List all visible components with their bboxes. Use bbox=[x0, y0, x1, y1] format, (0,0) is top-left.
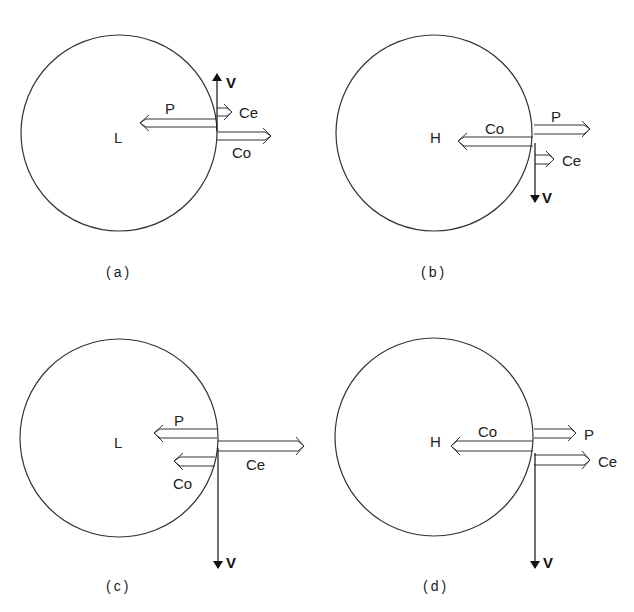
arrow-p-right bbox=[534, 121, 590, 137]
arrow-p-right bbox=[534, 425, 576, 441]
velocity-label: V bbox=[542, 189, 552, 206]
arrow-label-ce: Ce bbox=[598, 453, 617, 470]
arrow-ce-right bbox=[534, 451, 590, 469]
panel-caption: (d) bbox=[423, 578, 449, 594]
panel-caption: (a) bbox=[106, 264, 132, 280]
arrow-label-co: Co bbox=[232, 144, 251, 161]
arrow-p-left bbox=[140, 115, 216, 131]
arrow-label-co: Co bbox=[173, 475, 192, 492]
arrow-label-p: P bbox=[174, 412, 184, 429]
center-label: L bbox=[114, 434, 122, 451]
arrow-label-ce: Ce bbox=[562, 152, 581, 169]
center-label: H bbox=[430, 433, 441, 450]
velocity-label: V bbox=[226, 74, 236, 91]
arrow-label-ce: Ce bbox=[246, 456, 265, 473]
panel-b: H Co P Ce V (b) bbox=[336, 35, 590, 280]
panel-a: L P Ce Co V (a) bbox=[21, 35, 271, 280]
panel-d: H Co P Ce V (d) bbox=[335, 338, 617, 594]
center-label: L bbox=[114, 129, 122, 146]
arrow-co-right bbox=[217, 128, 271, 144]
arrow-p-left bbox=[154, 425, 217, 442]
velocity-label: V bbox=[226, 554, 236, 571]
arrow-ce-right bbox=[535, 151, 554, 167]
arrow-ce-right bbox=[217, 104, 232, 120]
arrow-label-co: Co bbox=[478, 423, 497, 440]
velocity-label: V bbox=[543, 554, 553, 571]
arrow-label-co: Co bbox=[485, 120, 504, 137]
panel-caption: (b) bbox=[421, 264, 447, 280]
arrow-ce-right bbox=[218, 437, 304, 455]
panel-c: L P Ce Co V (c) bbox=[20, 339, 304, 594]
arrow-label-ce: Ce bbox=[239, 104, 258, 121]
arrow-co-left bbox=[174, 453, 215, 470]
force-diagram-svg: L P Ce Co V (a) H Co bbox=[0, 0, 634, 612]
arrow-label-p: P bbox=[584, 426, 594, 443]
center-label: H bbox=[430, 129, 441, 146]
panel-caption: (c) bbox=[106, 578, 131, 594]
figure: L P Ce Co V (a) H Co bbox=[0, 0, 634, 612]
arrow-label-p: P bbox=[165, 100, 175, 117]
arrow-label-p: P bbox=[551, 108, 561, 125]
